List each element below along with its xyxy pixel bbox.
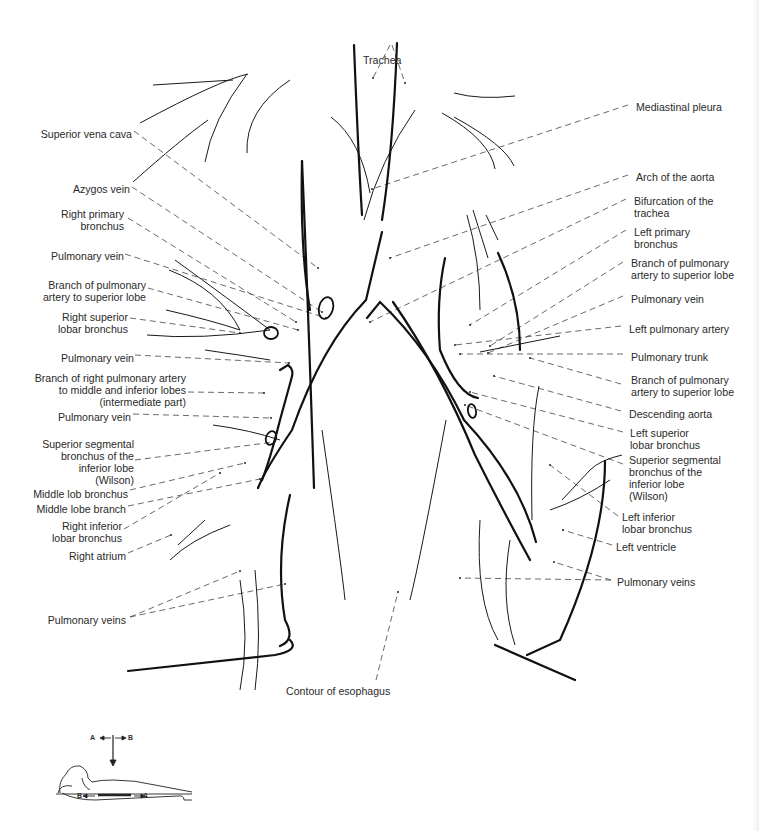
leader-line — [494, 376, 621, 411]
anatomy-stroke — [302, 161, 314, 488]
leader-line — [470, 392, 623, 432]
leader-line — [554, 562, 611, 580]
anatomy-stroke — [439, 258, 478, 398]
anatomy-stroke — [178, 520, 205, 545]
label-middle-lobe-branch: Middle lobe branch — [10, 503, 126, 515]
label-right-inferior-lobar-bronchus: Right inferior lobar bronchus — [30, 520, 122, 544]
label-superior-segmental-bronchus-right: Superior segmental bronchus of the infer… — [20, 438, 134, 486]
leader-line — [455, 326, 621, 345]
anatomy-thick-strokes — [128, 43, 605, 680]
label-arch-of-aorta: Arch of the aorta — [636, 171, 714, 183]
anatomy-stroke — [562, 455, 622, 500]
anatomy-stroke — [128, 640, 293, 671]
leader-line — [550, 465, 618, 516]
figure-canvas: Superior vena cava Azygos vein Right pri… — [0, 0, 759, 831]
anatomy-stroke — [133, 120, 208, 182]
label-bifurcation-of-trachea: Bifurcation of the trachea — [634, 195, 714, 219]
leader-line — [376, 592, 398, 680]
leader-line — [390, 175, 628, 258]
anatomy-stroke — [354, 45, 362, 215]
anatomy-stroke — [410, 420, 446, 600]
label-pulmonary-trunk: Pulmonary trunk — [631, 351, 708, 363]
anatomy-stroke — [442, 113, 495, 169]
anatomy-stroke — [486, 215, 498, 240]
anatomy-stroke — [140, 74, 248, 123]
leader-line — [124, 473, 220, 529]
label-pulmonary-vein-middle: Pulmonary vein — [30, 352, 134, 364]
leader-line — [128, 535, 171, 553]
anatomy-stroke — [532, 386, 539, 520]
inset-label-bottom-right: A — [143, 792, 148, 799]
leader-line — [130, 571, 240, 617]
anatomy-stroke — [205, 350, 270, 360]
label-right-superior-lobar-bronchus: Right superior lobar bronchus — [40, 311, 128, 335]
anatomy-stroke — [147, 330, 270, 337]
label-descending-aorta: Descending aorta — [629, 408, 712, 420]
anatomy-stroke — [262, 365, 292, 480]
label-left-primary-bronchus: Left primary bronchus — [634, 226, 690, 250]
anatomy-stroke — [153, 80, 233, 85]
anatomy-stroke — [175, 260, 270, 330]
label-pulmonary-vein-upper: Pulmonary vein — [30, 250, 124, 262]
leader-line — [128, 479, 260, 506]
anatomy-stroke — [479, 520, 498, 640]
scan-edge-band — [753, 0, 759, 831]
label-middle-lob-bronchus: Middle lob bronchus — [10, 488, 128, 500]
leader-line — [132, 187, 322, 312]
leader-line — [460, 578, 611, 580]
label-branch-pulmonary-artery-superior-lobe-left-2: Branch of pulmonary artery to superior l… — [631, 374, 734, 398]
vessel-cross-section — [316, 296, 335, 321]
label-azygos-vein: Azygos vein — [60, 183, 130, 195]
anatomy-stroke — [247, 80, 290, 153]
anatomy-stroke — [454, 117, 514, 166]
label-left-ventricle: Left ventricle — [616, 541, 676, 553]
label-branch-right-pulmonary-artery: Branch of right pulmonary artery to midd… — [10, 372, 186, 408]
label-pulmonary-vein-right: Pulmonary vein — [631, 293, 704, 305]
leader-line — [128, 218, 296, 322]
anatomy-stroke — [258, 232, 382, 488]
leader-line — [134, 131, 318, 268]
anatomy-stroke — [280, 495, 290, 646]
leader-lines — [124, 45, 628, 680]
label-mediastinal-pleura: Mediastinal pleura — [636, 101, 722, 113]
anatomy-stroke — [170, 525, 230, 560]
label-pulmonary-veins-right: Pulmonary veins — [617, 576, 695, 588]
leader-line — [370, 199, 626, 322]
inset-label-bottom-left: B — [77, 792, 82, 799]
inset-label-top-right: B — [128, 734, 133, 741]
vessel-cross-section — [264, 327, 278, 339]
label-right-primary-bronchus: Right primary bronchus — [50, 208, 124, 232]
leader-line — [530, 358, 621, 384]
anatomy-stroke — [506, 540, 515, 645]
anatomy-stroke — [322, 430, 345, 600]
anatomy-stroke — [382, 43, 397, 220]
label-pulmonary-vein-lower: Pulmonary vein — [30, 411, 131, 423]
label-right-atrium: Right atrium — [40, 550, 126, 562]
leader-line — [488, 296, 623, 353]
label-superior-segmental-bronchus-left: Superior segmental bronchus of the infer… — [629, 454, 721, 502]
anatomy-stroke — [498, 253, 520, 350]
anatomy-stroke — [240, 580, 245, 690]
label-trachea: Trachea — [363, 54, 401, 66]
leader-line — [563, 530, 612, 545]
vessel-cross-section — [467, 403, 477, 418]
leader-line — [130, 318, 240, 333]
leader-line — [188, 392, 264, 393]
inset-label-top-left: A — [90, 734, 95, 741]
anatomy-stroke — [367, 302, 536, 542]
leader-line — [133, 414, 271, 418]
label-branch-pulmonary-artery-superior-lobe-left-1: Branch of pulmonary artery to superior l… — [631, 257, 734, 281]
leader-line — [470, 230, 626, 325]
label-left-pulmonary-artery: Left pulmonary artery — [629, 323, 729, 335]
label-superior-vena-cava: Superior vena cava — [40, 128, 132, 140]
anatomy-stroke — [331, 117, 370, 193]
anatomy-stroke — [255, 570, 259, 690]
leader-line — [135, 442, 274, 460]
label-left-inferior-lobar-bronchus: Left inferior lobar bronchus — [622, 511, 692, 535]
leader-line — [465, 405, 623, 464]
label-contour-of-esophagus: Contour of esophagus — [286, 685, 390, 697]
leader-line — [130, 584, 285, 617]
anatomy-stroke — [454, 93, 515, 97]
label-pulmonary-veins-left: Pulmonary veins — [20, 614, 126, 626]
label-branch-pulmonary-artery-superior-lobe-right: Branch of pulmonary artery to superior l… — [20, 279, 146, 303]
